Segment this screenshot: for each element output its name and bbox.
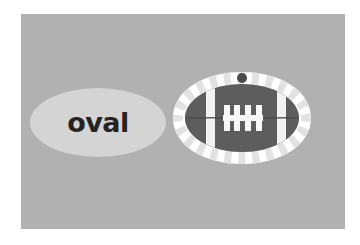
lace-3 — [245, 105, 251, 131]
lace-4 — [256, 105, 262, 131]
oval-word-shape[interactable]: oval — [30, 88, 166, 157]
lace-1 — [224, 105, 230, 131]
lace-2 — [234, 105, 240, 131]
slide-panel: oval — [21, 14, 345, 229]
slide-canvas: oval — [0, 0, 360, 245]
oval-word-label: oval — [67, 109, 129, 136]
football-illustration[interactable] — [170, 70, 314, 166]
football-svg — [170, 70, 314, 166]
football-top-dot — [237, 73, 247, 83]
